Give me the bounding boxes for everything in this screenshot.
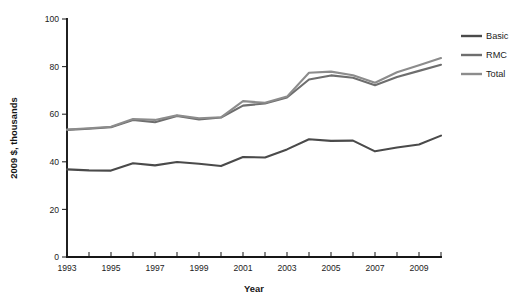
y-tick-label-20: 20 (49, 205, 59, 215)
x-tick-label-1995: 1995 (101, 263, 120, 273)
legend-label-rmc[interactable]: RMC (486, 50, 507, 60)
x-tick-label-2005: 2005 (321, 263, 340, 273)
x-tick-label-2007: 2007 (365, 263, 384, 273)
y-tick-label-100: 100 (45, 14, 60, 24)
y-tick-label-0: 0 (54, 252, 59, 262)
y-axis-title: 2009 $, thousands (8, 97, 19, 178)
x-tick-label-1999: 1999 (189, 263, 208, 273)
x-axis-title: Year (244, 283, 264, 294)
chart-figure: 020406080100 199319951997199920012003200… (0, 0, 527, 301)
x-tick-label-2001: 2001 (233, 263, 252, 273)
line-chart: 020406080100 199319951997199920012003200… (0, 0, 527, 301)
legend-label-basic[interactable]: Basic (486, 31, 509, 41)
y-tick-label-40: 40 (49, 157, 59, 167)
legend-label-total[interactable]: Total (486, 69, 505, 79)
y-tick-label-80: 80 (49, 62, 59, 72)
x-tick-label-2009: 2009 (409, 263, 428, 273)
figure-background (0, 0, 527, 301)
y-tick-label-60: 60 (49, 109, 59, 119)
x-tick-label-1997: 1997 (145, 263, 164, 273)
x-tick-label-2003: 2003 (277, 263, 296, 273)
x-tick-label-1993: 1993 (57, 263, 76, 273)
